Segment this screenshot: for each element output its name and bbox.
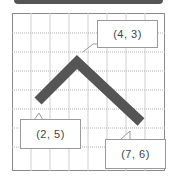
right-end-coordinate-label: (7, 6)	[121, 148, 150, 160]
left-end-callout: (2, 5)	[20, 119, 81, 149]
right-end-callout: (7, 6)	[105, 139, 166, 169]
left-end-coordinate-label: (2, 5)	[36, 128, 65, 140]
apex-callout: (4, 3)	[97, 20, 158, 48]
apex-coordinate-label: (4, 3)	[113, 28, 142, 40]
apex-callout-pointer	[83, 44, 97, 52]
